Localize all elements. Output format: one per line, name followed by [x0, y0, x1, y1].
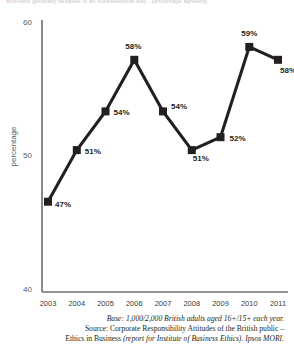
- footnote-source-cont: Ethics in Business (report for Institute…: [0, 334, 288, 344]
- value-label-2007: 54%: [171, 102, 187, 111]
- y-tick-label-40: 40: [10, 285, 32, 294]
- data-point-markers: [44, 43, 282, 206]
- y-axis-title: percentage: [9, 107, 18, 187]
- value-label-2009: 52%: [230, 134, 246, 143]
- x-tick-label-2010: 2010: [234, 299, 264, 308]
- data-point-marker: [217, 133, 225, 141]
- data-point-marker: [73, 146, 81, 154]
- footnote-publication-title: Ethics in Business: [65, 334, 123, 343]
- x-tick-label-2008: 2008: [177, 299, 207, 308]
- data-line: [48, 47, 278, 202]
- line-chart: 60 50 40 percentage 20032004200520062007…: [0, 12, 294, 312]
- value-label-2006: 58%: [125, 42, 141, 51]
- x-tick-label-2009: 2009: [206, 299, 236, 308]
- data-point-marker: [102, 107, 110, 115]
- value-label-2010: 59%: [241, 29, 257, 38]
- footnote-source: Source: Corporate Responsibility Attitud…: [0, 324, 288, 334]
- data-point-marker: [44, 198, 52, 206]
- value-label-2003: 47%: [55, 200, 71, 209]
- x-tick-label-2006: 2006: [119, 299, 149, 308]
- top-caption-strip: Business generally behaves in an honest/…: [6, 0, 288, 6]
- data-point-marker: [159, 107, 167, 115]
- data-point-marker: [130, 56, 138, 64]
- x-tick-label-2004: 2004: [62, 299, 92, 308]
- x-tick-label-2003: 2003: [33, 299, 63, 308]
- chart-plot-svg: [0, 12, 294, 312]
- value-label-2004: 51%: [85, 147, 101, 156]
- y-tick-label-60: 60: [10, 18, 32, 27]
- x-tick-label-2007: 2007: [148, 299, 178, 308]
- value-label-2005: 54%: [114, 108, 130, 117]
- footnote-publication-detail: (report for Institute of Business Ethics…: [123, 334, 284, 343]
- data-point-marker: [188, 146, 196, 154]
- data-point-marker: [274, 56, 282, 64]
- value-label-2008: 51%: [193, 154, 209, 163]
- data-point-marker: [245, 43, 253, 51]
- x-tick-label-2011: 2011: [263, 299, 293, 308]
- footnotes: Base: 1,000/2,000 British adults aged 16…: [0, 314, 288, 344]
- value-label-2011: 58%: [280, 66, 294, 75]
- x-tick-label-2005: 2005: [91, 299, 121, 308]
- footnote-base: Base: 1,000/2,000 British adults aged 16…: [0, 314, 288, 324]
